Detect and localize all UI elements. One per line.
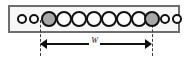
width-label-text: W [89,36,100,45]
particle-small-white [29,14,39,24]
particle-row [8,5,180,33]
particle-large-white [116,11,132,27]
particle-small-white [172,14,182,24]
particle-small-white [160,14,170,24]
schematic-figure: W [0,0,189,58]
particle-large-gray [41,11,57,27]
particle-large-white [101,11,117,27]
particle-small-white [17,14,27,24]
particle-large-white [56,11,72,27]
particle-large-gray [144,11,160,27]
particle-large-white [71,11,87,27]
particle-large-white [86,11,102,27]
width-dimension-label: W [0,36,189,45]
